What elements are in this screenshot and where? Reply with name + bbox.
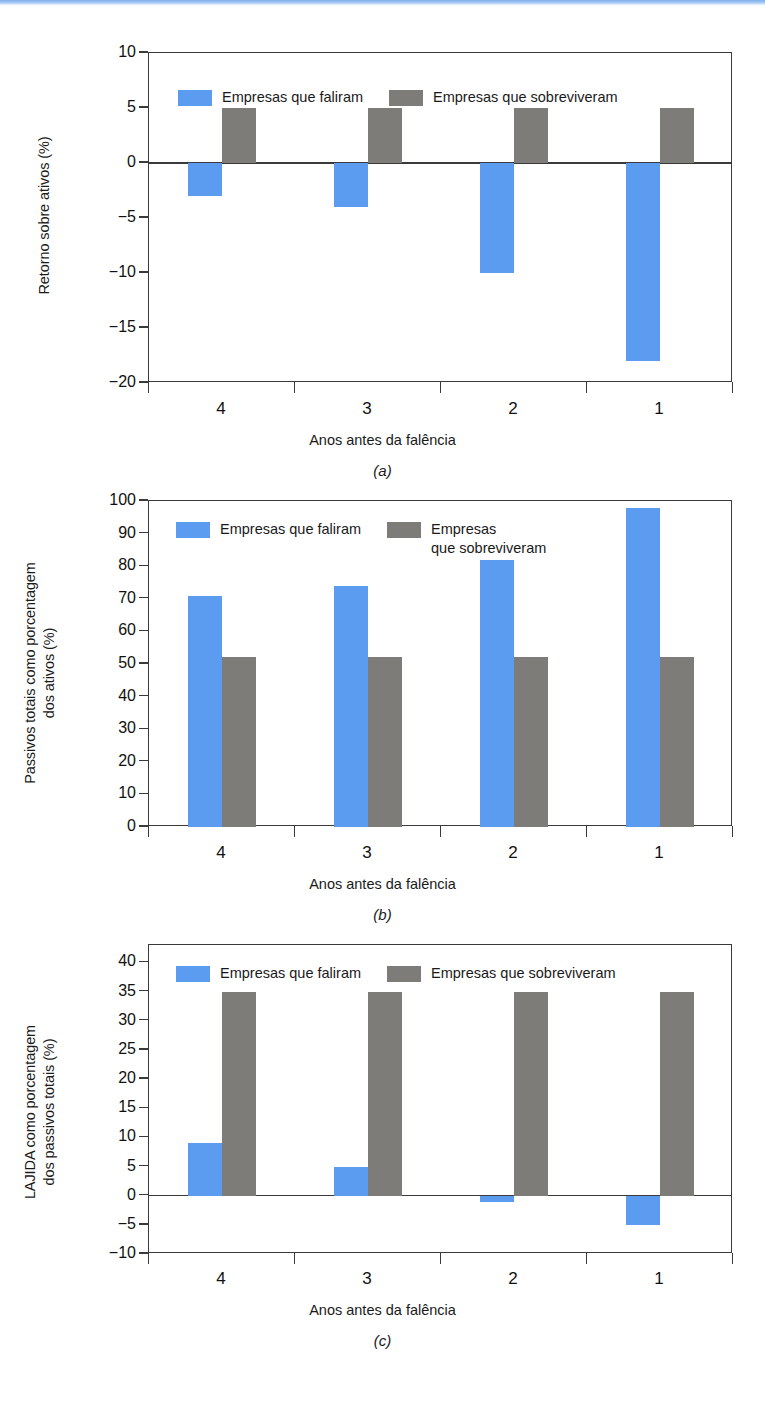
bar-survived-year-2 xyxy=(514,657,548,827)
panel-b-y-tick-label: 40 xyxy=(118,688,136,704)
panel-b-y-tick-label: 70 xyxy=(118,590,136,606)
bar-failed-year-1 xyxy=(626,1196,660,1225)
panel-b-y-tick-mark xyxy=(139,532,148,533)
panel-b-y-tick-mark xyxy=(139,630,148,631)
panel-c-y-tick-label: 5 xyxy=(127,1158,136,1174)
panel-c-y-tick-mark xyxy=(139,961,148,962)
panel-c-x-tick-mark xyxy=(440,1253,441,1264)
panel-a-y-tick-label: 10 xyxy=(118,44,136,60)
panel-a-x-tick-mark xyxy=(586,382,587,393)
panel-a-y-tick-label: 0 xyxy=(127,154,136,170)
panel-b-y-tick-mark xyxy=(139,565,148,566)
panel-c-y-tick-label: 40 xyxy=(118,953,136,969)
panel-c-y-tick-mark xyxy=(139,1048,148,1049)
page-top-accent-strip xyxy=(0,0,765,6)
panel-c-y-tick-label: 20 xyxy=(118,1070,136,1086)
panel-c-x-tick-mark xyxy=(586,1253,587,1264)
bar-survived-year-1 xyxy=(660,108,694,163)
bar-survived-year-1 xyxy=(660,992,694,1196)
panel-b-y-tick-mark xyxy=(139,825,148,826)
panel-b-y-tick-label: 90 xyxy=(118,525,136,541)
panel-c-y-tick-label: −10 xyxy=(109,1245,136,1261)
panel-b-y-tick-label: 0 xyxy=(127,818,136,834)
legend-entry-failed[interactable]: Empresas que faliram xyxy=(176,520,361,539)
bar-survived-year-3 xyxy=(368,657,402,827)
panel-a-y-tick-mark xyxy=(139,381,148,382)
panel-a-y-tick-label: 5 xyxy=(127,99,136,115)
panel-a-y-tick-mark xyxy=(139,216,148,217)
panel-b-y-tick-label: 60 xyxy=(118,622,136,638)
panel-c-x-axis-title: Anos antes da falência xyxy=(0,1302,765,1318)
panel-b-y-tick-mark xyxy=(139,793,148,794)
legend-label-failed: Empresas que faliram xyxy=(222,88,363,107)
panel-a-x-tick-mark xyxy=(148,382,149,393)
bar-failed-year-2 xyxy=(480,1196,514,1202)
panel-a-x-tick-label: 4 xyxy=(216,400,225,417)
bar-failed-year-3 xyxy=(334,163,368,207)
panel-c-y-axis-title: LAJIDA como porcentagem dos passivos tot… xyxy=(21,952,59,1272)
panel-b-y-tick-label: 20 xyxy=(118,753,136,769)
panel-b-x-tick-mark xyxy=(732,826,733,837)
panel-b-y-tick-label: 80 xyxy=(118,557,136,573)
panel-c-y-tick-mark xyxy=(139,1077,148,1078)
panel-a-x-tick-mark xyxy=(294,382,295,393)
panel-c-y-tick-label: 0 xyxy=(127,1187,136,1203)
panel-b-x-tick-mark xyxy=(586,826,587,837)
panel-b-y-tick-label: 100 xyxy=(109,492,136,508)
panel-b-y-tick-label: 30 xyxy=(118,720,136,736)
panel-a-x-tick-mark xyxy=(440,382,441,393)
panel-a-x-tick-label: 2 xyxy=(508,400,517,417)
legend-entry-failed[interactable]: Empresas que faliram xyxy=(176,964,361,983)
bar-survived-year-1 xyxy=(660,657,694,827)
panel-b-y-tick-mark xyxy=(139,695,148,696)
panel-c-x-tick-mark xyxy=(294,1253,295,1264)
panel-c-y-tick-mark xyxy=(139,1252,148,1253)
legend-entry-survived[interactable]: Empresas que sobreviveram xyxy=(389,88,618,107)
panel-b-y-tick-mark xyxy=(139,760,148,761)
panel-c-x-tick-label: 4 xyxy=(216,1270,225,1287)
panel-b-y-tick-mark xyxy=(139,728,148,729)
panel-a-legend: Empresas que faliram Empresas que sobrev… xyxy=(178,88,644,107)
bar-survived-year-2 xyxy=(514,992,548,1196)
panel-c-y-tick-label: 10 xyxy=(118,1128,136,1144)
bar-survived-year-4 xyxy=(222,657,256,827)
panel-b-y-tick-mark xyxy=(139,597,148,598)
panel-b-x-tick-label: 2 xyxy=(508,844,517,861)
panel-c-y-tick-mark xyxy=(139,1223,148,1224)
bar-failed-year-2 xyxy=(480,560,514,827)
bar-survived-year-4 xyxy=(222,108,256,163)
panel-c-x-tick-mark xyxy=(732,1253,733,1264)
legend-swatch-failed-icon xyxy=(178,90,212,106)
panel-a-y-tick-mark xyxy=(139,326,148,327)
figure-panel-a: Retorno sobre ativos (%) Empresas que fa… xyxy=(0,28,765,488)
bar-survived-year-4 xyxy=(222,992,256,1196)
legend-swatch-failed-icon xyxy=(176,522,210,538)
bar-failed-year-2 xyxy=(480,163,514,273)
panel-b-x-tick-mark xyxy=(148,826,149,837)
panel-c-x-tick-label: 2 xyxy=(508,1270,517,1287)
panel-a-x-axis-title: Anos antes da falência xyxy=(0,432,765,448)
panel-c-y-tick-label: 30 xyxy=(118,1012,136,1028)
panel-b-y-axis-title: Passivos totais como porcentagem dos ati… xyxy=(21,513,59,833)
panel-a-x-tick-label: 3 xyxy=(362,400,371,417)
panel-a-y-tick-mark xyxy=(139,51,148,52)
panel-b-legend: Empresas que faliram Empresas que sobrev… xyxy=(176,520,572,558)
panel-a-y-tick-label: −5 xyxy=(118,209,136,225)
legend-entry-failed[interactable]: Empresas que faliram xyxy=(178,88,363,107)
legend-entry-survived[interactable]: Empresas que sobreviveram xyxy=(387,964,616,983)
panel-c-y-tick-label: −5 xyxy=(118,1216,136,1232)
figure-panel-c: LAJIDA como porcentagem dos passivos tot… xyxy=(0,940,765,1410)
bar-survived-year-3 xyxy=(368,992,402,1196)
panel-a-y-tick-label: −20 xyxy=(109,374,136,390)
figure-panel-b: Passivos totais como porcentagem dos ati… xyxy=(0,488,765,940)
panel-c-y-tick-label: 35 xyxy=(118,983,136,999)
panel-c-y-tick-mark xyxy=(139,1194,148,1195)
bar-survived-year-3 xyxy=(368,108,402,163)
legend-entry-survived[interactable]: Empresas que sobreviveram xyxy=(387,520,546,558)
panel-c-y-tick-mark xyxy=(139,990,148,991)
legend-swatch-survived-icon xyxy=(387,966,421,982)
bar-survived-year-2 xyxy=(514,108,548,163)
panel-b-caption: (b) xyxy=(0,906,765,923)
panel-a-y-tick-mark xyxy=(139,106,148,107)
panel-a-x-tick-mark xyxy=(732,382,733,393)
